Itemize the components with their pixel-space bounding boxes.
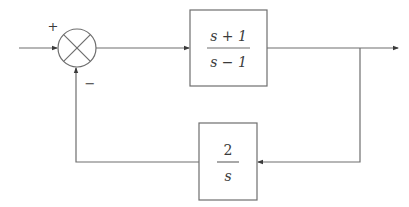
forward-numerator: s + 1 <box>210 28 247 44</box>
feedback-numerator: 2 <box>224 142 233 158</box>
plus-sign: + <box>48 19 59 34</box>
summing-junction <box>58 29 96 67</box>
forward-denominator: s − 1 <box>210 54 247 70</box>
feedback-denominator: s <box>224 168 231 184</box>
block-diagram: + − s + 1 s − 1 2 s <box>0 0 409 207</box>
forward-transfer-block: s + 1 s − 1 <box>190 10 267 86</box>
minus-sign: − <box>85 76 96 91</box>
feedback-pickoff-line <box>258 48 360 162</box>
feedback-transfer-block: 2 s <box>199 123 257 200</box>
